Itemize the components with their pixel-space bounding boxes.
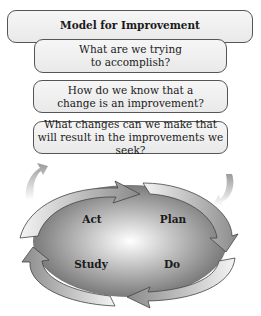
question-box-aim: What are we trying to accomplish? xyxy=(34,39,227,73)
question-measure-text: How do we know that a change is an impro… xyxy=(57,84,204,110)
do-label: Do xyxy=(164,258,180,270)
model-title: Model for Improvement xyxy=(60,19,200,32)
question-box-measure: How do we know that a change is an impro… xyxy=(33,80,228,113)
questions-to-cycle-arrow-icon xyxy=(213,174,233,206)
study-label: Study xyxy=(74,258,108,270)
pdsa-cycle-diagram: Act Plan Study Do xyxy=(0,150,261,316)
act-label: Act xyxy=(81,213,102,225)
plan-label: Plan xyxy=(160,213,187,225)
cycle-to-questions-arrow-icon xyxy=(26,163,48,200)
question-aim-text: What are we trying to accomplish? xyxy=(79,43,182,69)
